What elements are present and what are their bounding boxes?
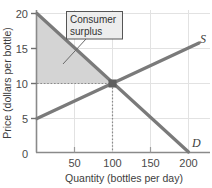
y-tick-label-10: 10 (16, 78, 28, 90)
chart-canvas: Consumer surplus 20 15 10 5 0 50 100 150… (0, 0, 212, 188)
callout-line-1: Consumer (70, 14, 117, 25)
y-tick-label-15: 15 (16, 43, 28, 55)
consumer-surplus-chart: Consumer surplus 20 15 10 5 0 50 100 150… (0, 0, 212, 188)
x-axis-title: Quantity (bottles per day) (65, 172, 183, 184)
y-tick-label-0: 0 (22, 148, 28, 160)
x-tick-label-200: 200 (179, 157, 197, 169)
callout-line-2: surplus (70, 26, 102, 37)
demand-curve-label: D (191, 136, 201, 150)
y-tick-label-20: 20 (16, 8, 28, 20)
supply-curve-label: S (200, 32, 206, 46)
x-tick-label-100: 100 (103, 157, 121, 169)
equilibrium-marker (109, 80, 117, 88)
x-tick-label-50: 50 (68, 157, 80, 169)
y-axis-title: Price (dollars per bottle) (1, 27, 13, 138)
y-tick-label-5: 5 (22, 113, 28, 125)
x-tick-label-150: 150 (141, 157, 159, 169)
y-axis-ticks (31, 14, 37, 119)
